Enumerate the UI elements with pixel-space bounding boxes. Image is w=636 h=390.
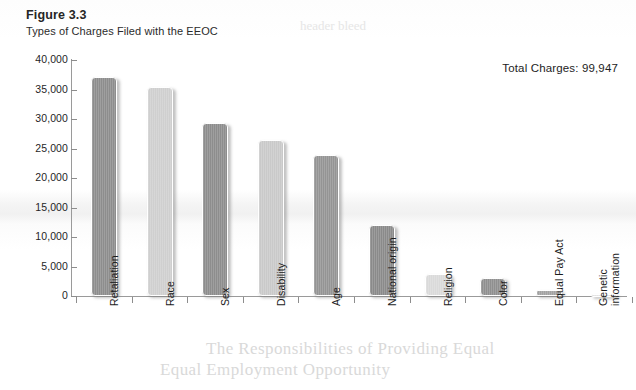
x-axis-tick-mark (298, 297, 299, 303)
y-axis-tick-label: 20,000 (35, 171, 68, 183)
y-axis-tick-mark (71, 90, 77, 91)
y-axis-tick-mark (71, 149, 77, 150)
y-axis-tick: 15,000 (0, 208, 80, 209)
category-label-retaliation: Retaliation (109, 255, 121, 306)
y-axis-tick: 0 (0, 296, 80, 297)
y-axis-tick: 25,000 (0, 149, 80, 150)
y-axis-tick-mark (71, 60, 77, 61)
y-axis-tick-mark (71, 119, 77, 120)
category-label-national-origin: National origin (387, 237, 399, 306)
y-axis-tick: 30,000 (0, 119, 80, 120)
y-axis-tick: 20,000 (0, 178, 80, 179)
x-axis-line (71, 296, 627, 297)
x-axis-tick-mark (632, 297, 633, 303)
category-label-genetic-information: Genetic information (598, 253, 621, 306)
x-axis-tick-mark (132, 297, 133, 303)
x-axis-tick-mark (243, 297, 244, 303)
y-axis-tick-label: 25,000 (35, 142, 68, 154)
category-label-race: Race (165, 281, 177, 306)
category-label-color: Color (498, 280, 510, 306)
y-axis-tick: 40,000 (0, 60, 80, 61)
y-axis-tick-mark (71, 208, 77, 209)
x-axis-tick-mark (76, 297, 77, 303)
y-axis-tick: 5,000 (0, 267, 80, 268)
bar-sex (202, 123, 228, 296)
category-label-religion: Religion (443, 267, 455, 306)
category-label-age: Age (331, 287, 343, 306)
x-axis-tick-mark (465, 297, 466, 303)
y-axis-tick: 35,000 (0, 90, 80, 91)
y-axis-tick-mark (71, 178, 77, 179)
x-axis-tick-mark (187, 297, 188, 303)
bar-chart-plot-area: 40,00035,00030,00025,00020,00015,00010,0… (0, 0, 636, 390)
bar-race (147, 87, 173, 296)
category-label-equal-pay-act: Equal Pay Act (554, 239, 566, 306)
y-axis-tick-label: 5,000 (41, 260, 68, 272)
y-axis-tick: 10,000 (0, 237, 80, 238)
y-axis-tick-label: 35,000 (35, 83, 68, 95)
y-axis-tick-mark (71, 237, 77, 238)
category-label-disability: Disability (276, 263, 288, 306)
category-label-sex: Sex (220, 288, 232, 306)
y-axis-tick-label: 40,000 (35, 53, 68, 65)
x-axis-tick-mark (410, 297, 411, 303)
x-axis-tick-mark (521, 297, 522, 303)
x-axis-tick-mark (576, 297, 577, 303)
bar-age (313, 155, 339, 296)
y-axis-tick-mark (71, 267, 77, 268)
y-axis-tick-label: 10,000 (35, 230, 68, 242)
x-axis-tick-mark (354, 297, 355, 303)
y-axis-tick-label: 0 (62, 289, 68, 301)
y-axis-tick-label: 30,000 (35, 112, 68, 124)
y-axis-tick-label: 15,000 (35, 201, 68, 213)
